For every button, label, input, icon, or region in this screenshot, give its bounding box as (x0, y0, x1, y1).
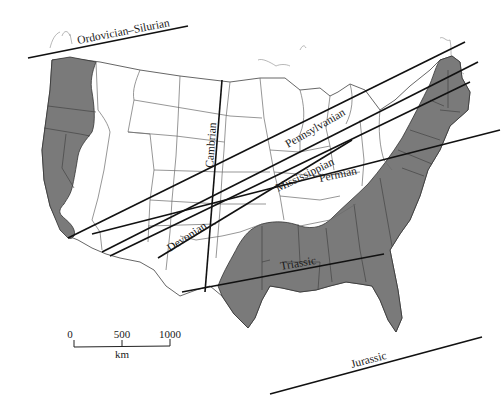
scale-bar: 0 500 1000 km (67, 328, 181, 360)
scale-tick-1000: 1000 (159, 328, 182, 340)
scale-tick-500: 500 (114, 328, 131, 340)
scale-tick-0: 0 (67, 328, 73, 340)
paleo-equator-map: Ordovician–Silurian Cambrian Pennsylvani… (0, 0, 504, 414)
jurassic-line (270, 337, 482, 394)
scale-unit: km (115, 348, 130, 360)
label-ordovician-silurian: Ordovician–Silurian (76, 16, 171, 46)
